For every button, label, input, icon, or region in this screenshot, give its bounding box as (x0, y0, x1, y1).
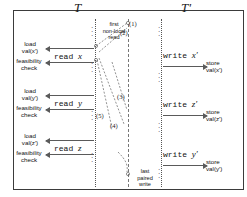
last-paired-write-note: last paired write (131, 168, 159, 188)
edge-3 (112, 62, 127, 110)
figure-canvas: T T' ··· ··· ··· ··· load val(x′) feasib… (0, 0, 247, 197)
edge-last (118, 152, 127, 172)
first-nonlocal-read-line1: first (109, 21, 118, 27)
last-paired-write-line2: paired (137, 175, 153, 181)
first-nonlocal-read-line3: read (108, 34, 119, 40)
edge-label-4: (4) (110, 122, 118, 129)
first-nonlocal-read-note: first non-local read (99, 21, 129, 41)
first-nonlocal-read-line2: non-local (103, 28, 126, 34)
last-paired-write-line1: last (141, 168, 150, 174)
last-paired-write-line3: write (139, 181, 151, 187)
edge-endpoint (126, 172, 129, 175)
edge-label-1: (1) (129, 20, 137, 27)
edge-label-5: (5) (96, 112, 104, 119)
edge-label-3: (3) (117, 93, 125, 100)
